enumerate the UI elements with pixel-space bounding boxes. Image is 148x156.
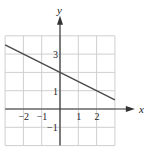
x-axis-label: x [138, 103, 144, 115]
y-tick-label: 3 [53, 49, 58, 60]
line-chart: xy −2−11231−1 [0, 0, 148, 156]
y-axis-arrow-icon [57, 16, 63, 25]
axes: xy [5, 4, 144, 146]
x-tick-label: −2 [18, 111, 29, 122]
x-tick-label: 2 [95, 111, 100, 122]
y-tick-label: −1 [47, 122, 58, 133]
y-axis-label: y [56, 4, 62, 16]
x-tick-label: −1 [37, 111, 48, 122]
x-tick-label: 1 [76, 111, 81, 122]
x-axis-arrow-icon [126, 106, 135, 112]
y-tick-label: 1 [53, 86, 58, 97]
